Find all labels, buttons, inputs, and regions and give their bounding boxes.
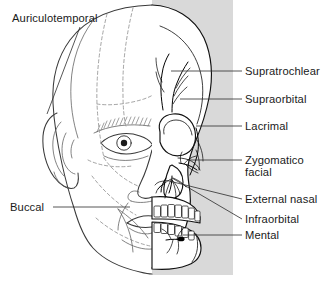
tooth [154, 206, 161, 217]
tooth [195, 211, 200, 221]
label-mental: Mental [245, 229, 279, 241]
face-nerve-diagram: Auriculotemporal Buccal Supratrochlear S… [0, 0, 326, 289]
tooth [168, 205, 175, 218]
head-outline [53, 5, 152, 274]
eyebrow-hatching [94, 117, 151, 133]
eye [101, 134, 152, 161]
leader-auriculotemporal [47, 27, 80, 114]
dermatome-line-maxillary [97, 95, 152, 105]
tooth [189, 208, 195, 219]
mouth-line [127, 223, 152, 227]
dermatome-line-cheek [88, 160, 132, 167]
face-surface-half [43, 5, 152, 274]
tooth [168, 225, 175, 235]
ear [43, 113, 79, 188]
ear-tragus [71, 140, 74, 158]
dermatome-line-jaw [96, 218, 150, 246]
anatomical-figure: Auriculotemporal Buccal Supratrochlear S… [0, 0, 326, 289]
dermatome-line-zygomatic [104, 158, 138, 186]
dermatome-line-temporal [123, 8, 133, 126]
tooth [175, 205, 182, 218]
label-zygomatico-facial-second-line: facial [245, 166, 272, 178]
label-lacrimal: Lacrimal [245, 120, 288, 132]
chin-crease [122, 240, 152, 249]
ear-concha [62, 133, 75, 174]
pupil [121, 140, 127, 146]
buccal-branch-b [118, 209, 133, 252]
ear-outer-helix [43, 113, 79, 188]
label-supraorbital: Supraorbital [245, 93, 307, 105]
label-group-right: Supratrochlear Supraorbital Lacrimal Zyg… [245, 65, 320, 241]
nose [128, 150, 152, 203]
dermatome-line-ophthalmic [97, 14, 107, 158]
lower-eyelid-crease [104, 156, 148, 161]
tooth [182, 206, 188, 218]
tooth [161, 205, 168, 217]
temple-contour [71, 22, 92, 138]
tooth [189, 231, 195, 240]
label-auriculotemporal: Auriculotemporal [12, 12, 98, 24]
label-external-nasal: External nasal [245, 193, 317, 205]
label-buccal: Buccal [10, 201, 44, 213]
nose-alar-crease [131, 201, 152, 203]
tooth [154, 223, 161, 233]
label-supratrochlear: Supratrochlear [245, 65, 320, 77]
mental-foramen [177, 237, 184, 242]
upper-lip [127, 216, 152, 223]
label-infraorbital: Infraorbital [245, 213, 299, 225]
label-zygomatico: Zygomatico [245, 154, 304, 166]
